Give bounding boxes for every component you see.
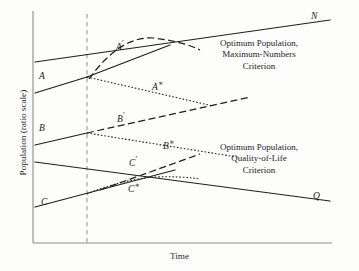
label-C: C (41, 198, 48, 208)
label-A: A (39, 72, 45, 82)
curve-A-prime-arc (89, 38, 200, 79)
label-B-star: B∗ (163, 139, 174, 152)
annotation-max-numbers-line1: Optimum Population, (196, 38, 322, 49)
label-A-prime-mark: ′ (122, 39, 124, 48)
figure-container: N Q A A′ A∗ B B′ B∗ C C′ C∗ Optimum Popu… (0, 0, 359, 271)
curve-A-star (87, 77, 213, 106)
curve-B (35, 133, 87, 145)
annotation-max-numbers-line2: Maximum-Numbers (196, 49, 322, 60)
annotation-quality-of-life-line2: Quality-of-Life (196, 153, 322, 164)
label-A-star-mark: ∗ (158, 79, 163, 88)
label-B-star-mark: ∗ (169, 138, 174, 147)
curve-B-prime (87, 97, 250, 133)
label-B-prime-mark: ′ (123, 111, 125, 120)
label-C-prime: C′ (129, 156, 137, 169)
curve-A-prime (87, 45, 170, 77)
annotation-max-numbers: Optimum Population, Maximum-Numbers Crit… (196, 38, 322, 72)
curve-C-star (87, 177, 200, 194)
label-C-star: C∗ (128, 182, 140, 195)
label-A-star: A∗ (152, 80, 163, 93)
label-B-prime: B′ (117, 112, 125, 125)
x-axis-label: Time (0, 252, 359, 261)
label-A-prime: A′ (116, 40, 124, 53)
label-N: N (311, 12, 318, 22)
annotation-quality-of-life: Optimum Population, Quality-of-Life Crit… (196, 142, 322, 176)
label-Q: Q (313, 192, 320, 202)
label-C-star-mark: ∗ (135, 181, 140, 190)
annotation-quality-of-life-line3: Criterion (196, 165, 322, 176)
annotation-quality-of-life-line1: Optimum Population, (196, 142, 322, 153)
label-C-prime-mark: ′ (136, 155, 138, 164)
y-axis-label: Population (ratio scale) (19, 63, 28, 203)
annotation-max-numbers-line3: Criterion (196, 61, 322, 72)
label-B: B (39, 124, 45, 134)
